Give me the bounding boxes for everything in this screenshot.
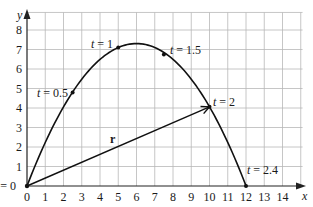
x-tick-label: 12 [240,190,252,204]
y-tick-label: 4 [16,101,22,115]
x-tick-label: 10 [204,190,216,204]
origin-point [25,184,29,188]
origin-label: t = 0 [0,179,16,193]
vector-label: r [110,132,116,146]
y-axis [24,9,31,186]
x-tick-label: 11 [222,190,234,204]
x-tick-label: 2 [61,190,67,204]
x-tick-label: 7 [152,190,158,204]
y-tick-label: 2 [16,140,22,154]
y-tick-label: 3 [16,121,22,135]
y-tick-label: 1 [16,160,22,174]
label-t-1: t = 1 [91,37,113,51]
x-tick-label: 4 [97,190,103,204]
label-t-2.4: t = 2.4 [247,163,278,177]
label-t-1.5: t = 1.5 [170,43,201,57]
y-tick-label: 7 [16,43,22,57]
marked-point [208,105,212,109]
trajectory-diagram: 01234567891011121314 12345678 x y t = 0 … [0,0,313,207]
x-tick-label: 13 [258,190,270,204]
label-t-0.5: t = 0.5 [37,86,68,100]
x-tick-labels: 01234567891011121314 [24,190,289,204]
x-tick-label: 0 [24,190,30,204]
x-tick-label: 6 [134,190,140,204]
x-tick-label: 14 [277,190,289,204]
x-tick-label: 5 [115,190,121,204]
y-tick-labels: 12345678 [16,23,22,174]
x-tick-label: 3 [79,190,85,204]
x-tick-label: 8 [170,190,176,204]
marked-point [71,90,75,94]
x-tick-label: 9 [188,190,194,204]
y-tick-label: 6 [16,62,22,76]
x-tick-label: 1 [42,190,48,204]
x-axis-label: x [301,189,308,203]
y-tick-label: 8 [16,23,22,37]
y-tick-label: 5 [16,82,22,96]
marked-point [116,46,120,50]
y-axis-arrow-icon [24,9,31,19]
label-t-2: t = 2 [213,95,235,109]
marked-point [162,52,166,56]
marked-point [244,184,248,188]
y-axis-label: y [16,8,23,22]
